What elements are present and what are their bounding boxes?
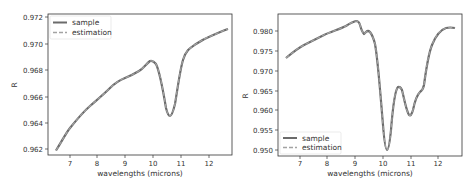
legend-estimation-label: estimation xyxy=(72,28,112,37)
left-xtick-label: 12 xyxy=(205,160,214,168)
legend-sample-label: sample xyxy=(72,18,100,27)
left-ytick-label: 0.966 xyxy=(23,94,44,102)
left-legend: sample estimation xyxy=(50,16,112,39)
right-xtick-label: 7 xyxy=(298,160,302,168)
legend-estimation-label: estimation xyxy=(302,143,342,152)
right-ytick-label: 0.960 xyxy=(253,107,273,115)
right-x-ticks: 7 8 9 10 11 12 xyxy=(298,156,443,168)
left-xtick-label: 7 xyxy=(68,160,72,168)
left-y-ticks: 0.972 0.970 0.968 0.966 0.964 0.962 xyxy=(23,14,48,154)
right-legend: sample estimation xyxy=(280,132,342,154)
right-ytick-label: 0.970 xyxy=(253,68,273,76)
left-ytick-label: 0.970 xyxy=(23,41,43,49)
left-ytick-label: 0.964 xyxy=(23,120,44,128)
right-ytick-label: 0.965 xyxy=(253,88,273,96)
right-x-axis-label: wavelengths (microns) xyxy=(327,169,413,178)
right-sample-line xyxy=(286,21,455,150)
right-xtick-label: 8 xyxy=(325,160,329,168)
left-xtick-label: 9 xyxy=(123,160,127,168)
left-ytick-label: 0.968 xyxy=(23,67,43,75)
left-xtick-label: 11 xyxy=(177,160,186,168)
right-ytick-label: 0.980 xyxy=(253,28,273,36)
left-xtick-label: 10 xyxy=(149,160,158,168)
right-y-axis-label: R xyxy=(241,93,250,98)
figure: 0.972 0.970 0.968 0.966 0.964 0.962 7 8 … xyxy=(0,0,476,189)
left-sample-line xyxy=(56,29,228,151)
left-ytick-label: 0.962 xyxy=(23,146,43,154)
left-plot: 0.972 0.970 0.968 0.966 0.964 0.962 7 8 … xyxy=(10,14,232,179)
left-ytick-label: 0.972 xyxy=(23,14,43,22)
left-xtick-label: 8 xyxy=(95,160,99,168)
left-y-axis-label: R xyxy=(10,82,19,87)
right-xtick-label: 10 xyxy=(379,160,388,168)
right-y-ticks: 0.980 0.975 0.970 0.965 0.960 0.955 0.95… xyxy=(253,28,278,155)
left-estimation-line xyxy=(56,29,228,151)
left-x-axis-label: wavelengths (microns) xyxy=(97,169,183,178)
right-xtick-label: 11 xyxy=(407,160,416,168)
right-xtick-label: 9 xyxy=(353,160,357,168)
right-ytick-label: 0.955 xyxy=(253,127,273,135)
right-ytick-label: 0.975 xyxy=(253,48,273,56)
right-xtick-label: 12 xyxy=(434,160,443,168)
right-plot: 0.980 0.975 0.970 0.965 0.960 0.955 0.95… xyxy=(241,14,462,178)
right-ytick-label: 0.950 xyxy=(253,147,273,155)
left-x-ticks: 7 8 9 10 11 12 xyxy=(68,155,214,168)
legend-sample-label: sample xyxy=(302,134,330,143)
